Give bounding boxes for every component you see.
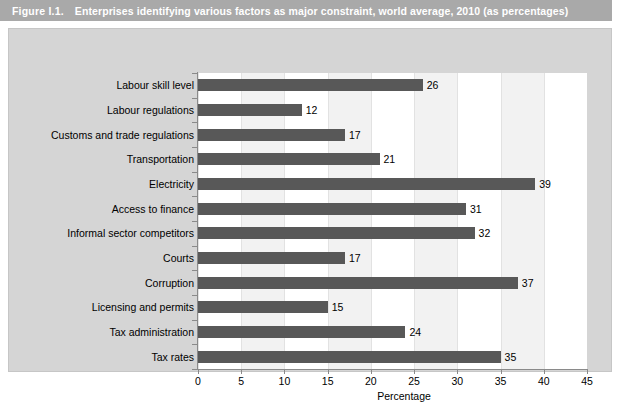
figure-number: Figure I.1. (12, 5, 64, 17)
y-axis-tick-label: Informal sector competitors (12, 227, 194, 239)
x-axis-line (197, 369, 588, 370)
x-axis-tick-label: 30 (451, 375, 463, 387)
y-axis-tick-label: Labour skill level (12, 79, 194, 91)
y-axis-tick-label: Labour regulations (12, 104, 194, 116)
x-axis-tick-label: 40 (538, 375, 550, 387)
x-axis-tick-label: 45 (581, 375, 593, 387)
y-axis-tick (192, 172, 197, 173)
figure-caption-banner: Figure I.1. Enterprises identifying vari… (0, 0, 612, 21)
y-axis-tick (192, 320, 197, 321)
x-axis-tick-label: 5 (238, 375, 244, 387)
y-axis-tick (192, 344, 197, 345)
bar-value-label: 17 (349, 253, 361, 264)
bar-row (198, 172, 587, 197)
y-axis-tick-label: Licensing and permits (12, 301, 194, 313)
x-axis-tick-label: 35 (495, 375, 507, 387)
bar-value-label: 21 (384, 154, 396, 165)
y-axis-tick-label: Courts (12, 252, 194, 264)
bar[interactable] (198, 277, 518, 289)
x-axis-tick-label: 0 (195, 375, 201, 387)
bar-row (198, 344, 587, 369)
y-axis-tick (192, 122, 197, 123)
bar-value-label: 31 (470, 204, 482, 215)
x-axis-title: Percentage (9, 390, 613, 402)
x-axis-tick (587, 370, 588, 374)
bar[interactable] (198, 227, 475, 239)
bar-row (198, 246, 587, 271)
x-axis-tick (501, 370, 502, 374)
bar[interactable] (198, 326, 405, 338)
bar[interactable] (198, 351, 501, 363)
bar[interactable] (198, 129, 345, 141)
bar-value-label: 15 (332, 302, 344, 313)
y-axis-tick (192, 295, 197, 296)
bar[interactable] (198, 104, 302, 116)
y-axis-tick-label: Electricity (12, 178, 194, 190)
y-axis-tick-label: Tax administration (12, 326, 194, 338)
chart-panel: Labour skill levelLabour regulationsCust… (8, 28, 612, 372)
bar-value-label: 24 (409, 327, 421, 338)
x-axis-tick (241, 370, 242, 374)
y-axis-tick-label: Corruption (12, 277, 194, 289)
x-axis-tick (198, 370, 199, 374)
bar-value-label: 39 (539, 179, 551, 190)
bar[interactable] (198, 252, 345, 264)
y-axis-tick (192, 73, 197, 74)
y-axis-tick (192, 196, 197, 197)
y-axis-line (197, 72, 198, 370)
bar-row (198, 122, 587, 147)
bar-row (198, 73, 587, 98)
y-axis-tick (192, 221, 197, 222)
y-axis-tick-label: Tax rates (12, 351, 194, 363)
x-axis-tick-label: 25 (408, 375, 420, 387)
x-axis-tick (328, 370, 329, 374)
bar[interactable] (198, 203, 466, 215)
x-axis-tick (457, 370, 458, 374)
bar-value-label: 37 (522, 278, 534, 289)
bar[interactable] (198, 79, 423, 91)
y-axis-category-labels: Labour skill levelLabour regulationsCust… (9, 73, 194, 369)
y-axis-tick-label: Customs and trade regulations (12, 129, 194, 141)
y-axis-tick-label: Transportation (12, 153, 194, 165)
bar-value-label: 35 (505, 352, 517, 363)
bar-row (198, 295, 587, 320)
bar-row (198, 98, 587, 123)
bar-value-label: 17 (349, 130, 361, 141)
bar[interactable] (198, 301, 328, 313)
y-axis-tick (192, 98, 197, 99)
y-axis-tick (192, 246, 197, 247)
x-axis-tick (414, 370, 415, 374)
bar-value-label: 12 (306, 105, 318, 116)
y-axis-tick (192, 147, 197, 148)
y-axis-tick (192, 270, 197, 271)
y-axis-tick-label: Access to finance (12, 203, 194, 215)
bar-row (198, 196, 587, 221)
x-axis-tick (544, 370, 545, 374)
bar[interactable] (198, 153, 380, 165)
bar[interactable] (198, 178, 535, 190)
bar-value-label: 32 (479, 228, 491, 239)
x-axis-tick (371, 370, 372, 374)
x-axis-tick-label: 15 (322, 375, 334, 387)
x-axis-tick-label: 20 (365, 375, 377, 387)
x-axis-tick-label: 10 (279, 375, 291, 387)
bar-value-label: 26 (427, 80, 439, 91)
plot-area (198, 73, 587, 369)
x-axis-title-text: Percentage (377, 390, 431, 402)
figure-title: Enterprises identifying various factors … (75, 5, 568, 17)
bar-row (198, 320, 587, 345)
bar-row (198, 221, 587, 246)
x-axis-tick (284, 370, 285, 374)
y-axis-tick (192, 369, 197, 370)
